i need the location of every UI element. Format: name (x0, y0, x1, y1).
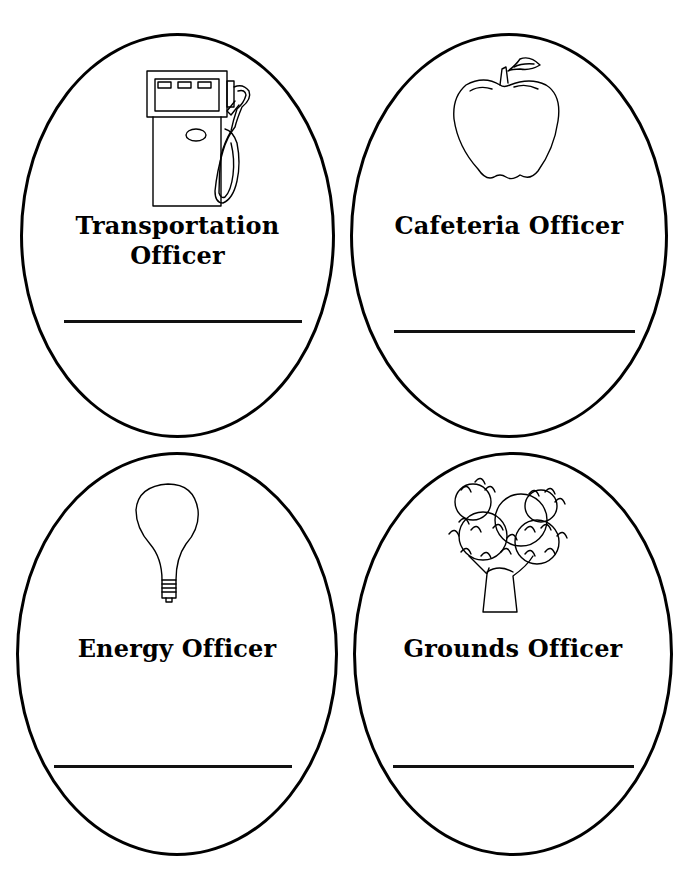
badge-grounds: Grounds Officer (353, 452, 673, 856)
badge-title-line1: Cafeteria Officer (395, 211, 624, 240)
badge-title: Transportation Officer (20, 211, 335, 271)
light-bulb-icon (132, 480, 222, 605)
badge-title-line2: Officer (130, 241, 225, 270)
name-write-line[interactable] (393, 765, 634, 768)
tree-icon (441, 472, 581, 612)
gas-pump-icon (125, 71, 255, 211)
badge-title-line1: Energy Officer (78, 634, 277, 663)
badge-title: Energy Officer (16, 634, 338, 664)
name-write-line[interactable] (54, 765, 292, 768)
apple-icon (450, 55, 560, 190)
name-write-line[interactable] (64, 320, 302, 323)
badge-cafeteria: Cafeteria Officer (350, 33, 668, 438)
badge-title-line1: Transportation (76, 211, 280, 240)
name-write-line[interactable] (394, 330, 635, 333)
badge-title-line1: Grounds Officer (404, 634, 623, 663)
badge-title: Grounds Officer (353, 634, 673, 664)
badge-title: Cafeteria Officer (350, 211, 668, 241)
badge-transportation: Transportation Officer (20, 33, 335, 438)
badge-energy: Energy Officer (16, 452, 338, 856)
